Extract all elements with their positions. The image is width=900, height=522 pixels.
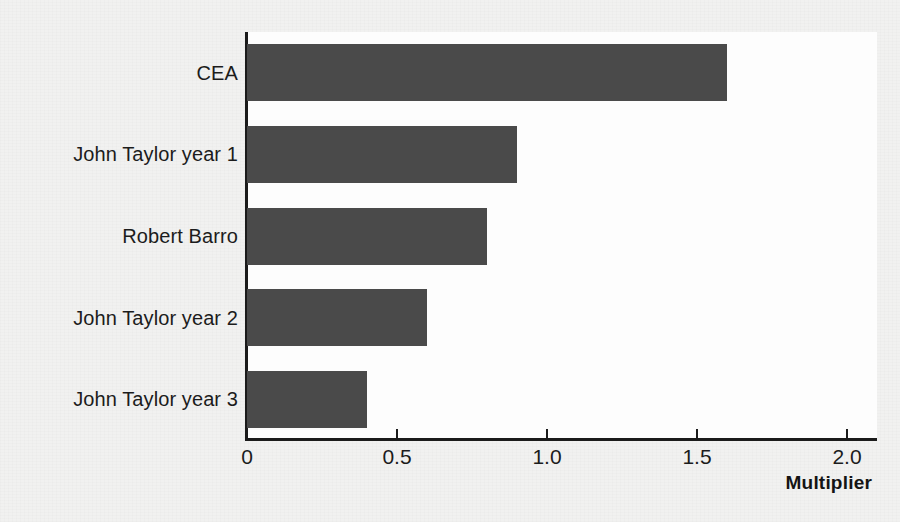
x-tick-0 <box>246 429 248 440</box>
category-label-john-taylor-year-1: John Taylor year 1 <box>0 144 238 164</box>
x-tick-label-3: 1.5 <box>662 446 732 467</box>
category-axis-labels: CEA John Taylor year 1 Robert Barro John… <box>0 32 238 440</box>
bar-john-taylor-year-3 <box>247 371 367 428</box>
x-tick-label-4: 2.0 <box>812 446 882 467</box>
x-tick-2 <box>546 429 548 440</box>
x-tick-label-0: 0 <box>212 446 282 467</box>
x-tick-3 <box>696 429 698 440</box>
bar-cea <box>247 44 727 101</box>
bar-john-taylor-year-2 <box>247 289 427 346</box>
category-label-cea: CEA <box>0 63 238 83</box>
bar-john-taylor-year-1 <box>247 126 517 183</box>
category-label-robert-barro: Robert Barro <box>0 226 238 246</box>
x-tick-4 <box>846 429 848 440</box>
category-label-john-taylor-year-2: John Taylor year 2 <box>0 308 238 328</box>
x-tick-label-2: 1.0 <box>512 446 582 467</box>
bar-robert-barro <box>247 208 487 265</box>
x-tick-label-1: 0.5 <box>362 446 432 467</box>
bar-chart-figure: CEA John Taylor year 1 Robert Barro John… <box>0 0 900 522</box>
category-label-john-taylor-year-3: John Taylor year 3 <box>0 389 238 409</box>
bars-group <box>247 32 877 440</box>
x-tick-1 <box>396 429 398 440</box>
x-axis-title: Multiplier <box>700 472 872 494</box>
